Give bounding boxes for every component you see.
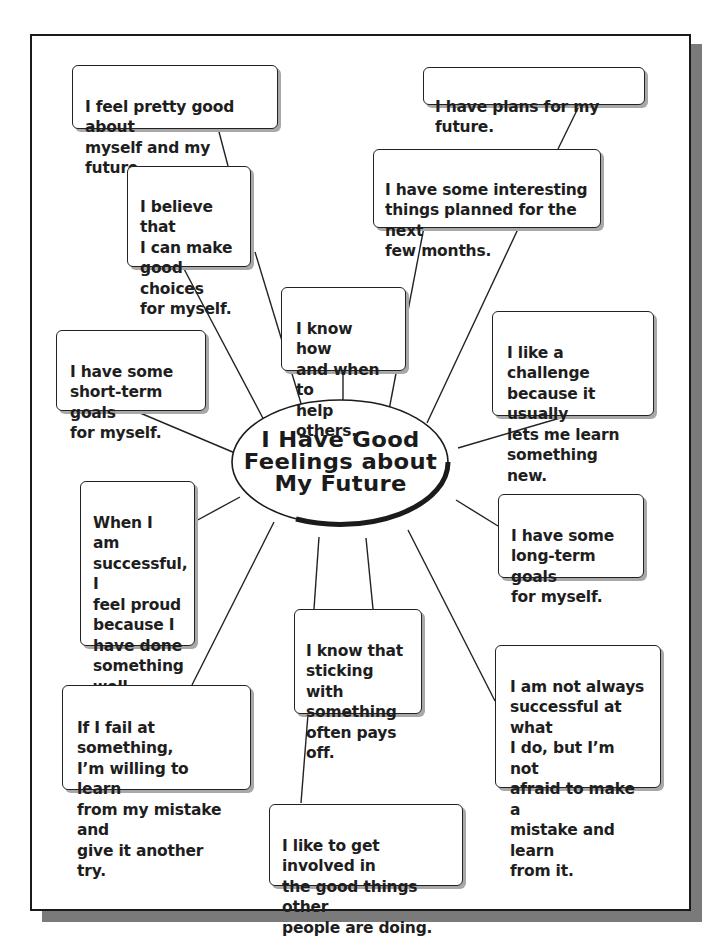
statement-feel-good: I feel pretty good about myself and my f… <box>72 65 278 129</box>
statement-good-choices: I believe that I can make good choices f… <box>127 166 251 267</box>
statement-plans: I have plans for my future. <box>423 67 645 105</box>
statement-text: I believe that I can make good choices f… <box>140 197 238 320</box>
statement-long-term-goals: I have some long-term goals for myself. <box>498 494 644 578</box>
statement-sticking-with: I know that sticking with something ofte… <box>294 609 422 714</box>
statement-text: I have some interesting things planned f… <box>385 180 589 262</box>
statement-get-involved: I like to get involved in the good thing… <box>269 804 463 886</box>
statement-text: I like a challenge because it usually le… <box>507 343 639 487</box>
statement-text: I have some long-term goals for myself. <box>511 526 631 608</box>
statement-text: I know how and when to help others. <box>296 319 391 442</box>
statement-challenge: I like a challenge because it usually le… <box>492 311 654 416</box>
statement-feel-proud: When I am successful, I feel proud becau… <box>80 481 195 646</box>
statement-text: I am not always successful at what I do,… <box>510 677 646 882</box>
statement-text: I have plans for my future. <box>435 97 633 138</box>
statement-interesting-things: I have some interesting things planned f… <box>373 149 601 228</box>
statement-text: I like to get involved in the good thing… <box>282 836 450 937</box>
statement-short-term-goals: I have some short-term goals for myself. <box>56 330 206 411</box>
statement-text: When I am successful, I feel proud becau… <box>93 513 182 698</box>
statement-text: I have some short-term goals for myself. <box>70 362 192 444</box>
statement-text: If I fail at something, I’m willing to l… <box>77 718 236 882</box>
statement-text: I know that sticking with something ofte… <box>306 641 410 764</box>
statement-not-afraid-mistake: I am not always successful at what I do,… <box>495 645 661 788</box>
statement-help-others: I know how and when to help others. <box>281 287 406 371</box>
statement-learn-from-mistake: If I fail at something, I’m willing to l… <box>62 685 251 790</box>
